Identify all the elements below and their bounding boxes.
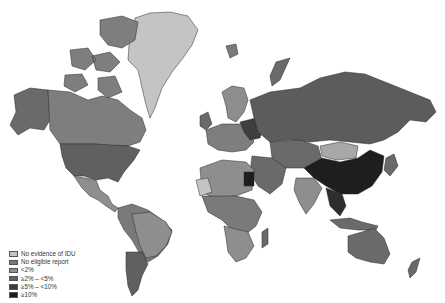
- legend-swatch: [9, 268, 18, 274]
- region-madagascar: [262, 228, 268, 248]
- legend-swatch: [9, 276, 18, 282]
- legend-label: ≥10%: [21, 291, 37, 299]
- legend-label: ≥2% – <5%: [21, 275, 53, 283]
- legend-item-lt2: <2%: [9, 266, 76, 274]
- region-egypt: [244, 172, 254, 186]
- region-australia: [348, 228, 390, 264]
- region-greenland: [128, 12, 198, 118]
- region-mongolia: [320, 142, 358, 160]
- legend-item-no-evidence: No evidence of IDU: [9, 250, 76, 258]
- region-uk: [200, 112, 212, 130]
- map-legend: No evidence of IDU No eligible report <2…: [9, 250, 76, 299]
- region-scandinavia: [222, 86, 248, 122]
- region-novaya-zemlya: [270, 58, 290, 86]
- legend-label: No eligible report: [21, 258, 69, 266]
- legend-label: <2%: [21, 266, 34, 274]
- region-svalbard: [226, 44, 238, 58]
- region-canada-arctic: [64, 16, 138, 98]
- legend-swatch: [9, 260, 18, 266]
- region-japan: [384, 154, 398, 176]
- legend-item-5to10: ≥5% – <10%: [9, 283, 76, 291]
- legend-item-2to5: ≥2% – <5%: [9, 275, 76, 283]
- region-canada: [48, 90, 146, 146]
- region-brazil: [132, 212, 172, 258]
- region-alaska: [10, 88, 50, 135]
- legend-swatch: [9, 251, 18, 257]
- legend-label: No evidence of IDU: [21, 250, 76, 258]
- legend-label: ≥5% – <10%: [21, 283, 57, 291]
- legend-item-gte10: ≥10%: [9, 291, 76, 299]
- legend-swatch: [9, 292, 18, 298]
- region-argentina: [126, 252, 148, 296]
- region-usa: [60, 144, 140, 182]
- region-mexico: [74, 176, 118, 212]
- legend-swatch: [9, 284, 18, 290]
- region-russia: [250, 72, 436, 144]
- region-india: [294, 178, 322, 214]
- region-indonesia: [330, 218, 378, 230]
- region-new-zealand: [408, 258, 420, 278]
- legend-item-no-report: No eligible report: [9, 258, 76, 266]
